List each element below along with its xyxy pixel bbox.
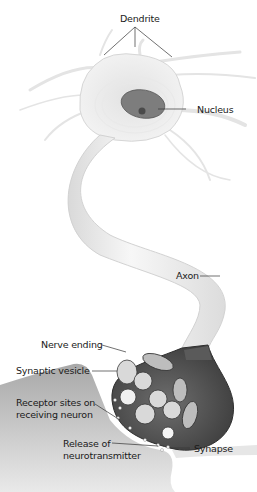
axon	[68, 135, 225, 350]
label-release-2: neurotransmitter	[63, 450, 141, 461]
label-release-1: Release of	[63, 438, 110, 449]
label-receptor-sites-2: receiving neuron	[16, 409, 93, 420]
label-synaptic-vesicle: Synaptic vesicle	[16, 365, 90, 376]
label-axon: Axon	[176, 270, 199, 281]
label-synapse: Synapse	[194, 443, 233, 454]
label-nerve-ending: Nerve ending	[41, 339, 103, 350]
nucleolus	[139, 108, 146, 115]
label-dendrite: Dendrite	[120, 13, 160, 24]
label-receptor-sites-1: Receptor sites on	[16, 397, 95, 408]
label-nucleus: Nucleus	[197, 104, 233, 115]
